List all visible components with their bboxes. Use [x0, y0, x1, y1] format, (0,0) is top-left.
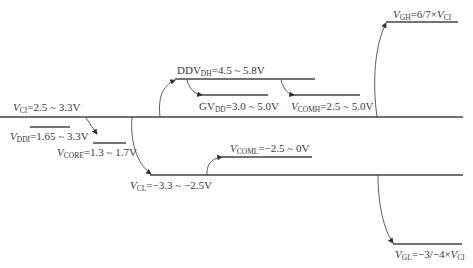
- vddi-label: VDDI=1.65 ~ 3.3V: [10, 130, 89, 146]
- vgh-sub: GH: [400, 13, 411, 22]
- vddi-sub: DDI: [17, 135, 30, 144]
- vcoml-var: V: [230, 142, 237, 154]
- vcl-value: =−3.3 ~ −2.5V: [146, 179, 212, 191]
- vci-label: VCI=2.5 ~ 3.3V: [13, 101, 80, 117]
- gvdd-value: =3.0 ~ 5.0V: [226, 100, 279, 112]
- vcoml-arrow: [207, 157, 222, 175]
- vgl-label: VGL=−3/−4×VCI: [395, 248, 465, 264]
- ddvdh-value: =4.5 ~ 5.8V: [212, 64, 265, 76]
- vgh-label: VGH=6/7×VCI: [393, 8, 451, 24]
- vcore-value: =1.3 ~ 1.7V: [84, 146, 137, 158]
- ddvdh-label: DDVDH=4.5 ~ 5.8V: [177, 64, 265, 80]
- vgl-sub2: CI: [457, 253, 465, 262]
- vgl-arrow: [378, 175, 393, 243]
- vcoml-value: =−2.5 ~ 0V: [258, 142, 309, 154]
- vddi-var: V: [10, 130, 17, 142]
- vgh-arrow: [375, 23, 386, 117]
- ddvdh-var: DDV: [177, 64, 201, 76]
- ddvdh-sub: DH: [201, 69, 212, 78]
- vcore-label: VCORE=1.3 ~ 1.7V: [57, 146, 137, 162]
- gvdd-sub: DD: [215, 105, 226, 114]
- vcomh-var: V: [291, 100, 298, 112]
- vcl-sub: CL: [137, 184, 147, 193]
- vcomh-arrow: [281, 80, 294, 95]
- vcore-var: V: [57, 146, 64, 158]
- vgl-sub: GL: [402, 253, 412, 262]
- gvdd-var: GV: [199, 100, 215, 112]
- vci-value: =2.5 ~ 3.3V: [27, 101, 80, 113]
- vcomh-label: VCOMH=2.5 ~ 5.0V: [291, 100, 373, 116]
- vcore-sub: CORE: [64, 151, 84, 160]
- vcomh-sub: COMH: [298, 105, 321, 114]
- vgh-var2: V: [437, 8, 444, 20]
- vcl-var: V: [130, 179, 137, 191]
- vgh-value: =6/7×: [411, 8, 437, 20]
- vcoml-label: VCOML=−2.5 ~ 0V: [230, 142, 309, 158]
- gvdd-arrow: [187, 80, 202, 95]
- vcoml-sub: COML: [237, 147, 259, 156]
- vgl-value: =−3/−4×: [412, 248, 451, 260]
- vgh-var: V: [393, 8, 400, 20]
- vcl-label: VCL=−3.3 ~ −2.5V: [130, 179, 212, 195]
- vgl-var: V: [395, 248, 402, 260]
- vddi-value: =1.65 ~ 3.3V: [30, 130, 89, 142]
- ddvdh-arrow: [160, 80, 175, 117]
- vcomh-value: =2.5 ~ 5.0V: [320, 100, 373, 112]
- vci-var: V: [13, 101, 20, 113]
- vgh-sub2: CI: [444, 13, 452, 22]
- gvdd-label: GVDD=3.0 ~ 5.0V: [199, 100, 279, 116]
